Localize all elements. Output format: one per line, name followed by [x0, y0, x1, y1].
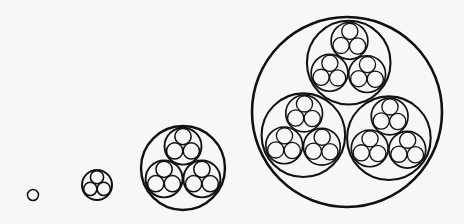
- circle-level-0: [288, 110, 304, 126]
- circle-level-1: [165, 128, 202, 165]
- circle-level-0: [148, 176, 164, 192]
- circle-level-2: [307, 21, 391, 105]
- stage-depth-0: [28, 190, 39, 201]
- circle-level-0: [342, 23, 358, 39]
- circle-level-1: [389, 131, 426, 168]
- stage-depth-1: [82, 170, 112, 200]
- circle-level-0: [305, 143, 321, 159]
- circle-level-0: [276, 128, 292, 144]
- circle-level-1: [331, 23, 368, 60]
- recursive-circles-diagram: [0, 0, 464, 224]
- circle-level-0: [314, 129, 330, 145]
- circle-level-0: [351, 71, 367, 87]
- circle-level-2: [141, 126, 225, 210]
- circle-level-0: [322, 144, 338, 160]
- circle-level-1: [183, 160, 220, 197]
- circle-level-2: [262, 93, 346, 177]
- circle-level-0: [359, 56, 375, 72]
- circle-level-0: [330, 70, 346, 86]
- circle-level-0: [156, 161, 172, 177]
- circle-level-0: [322, 55, 338, 71]
- circle-level-0: [268, 142, 284, 158]
- circle-level-3: [252, 17, 442, 207]
- circle-level-2: [347, 96, 431, 180]
- circle-level-0: [175, 128, 191, 144]
- circle-level-1: [303, 128, 340, 165]
- circle-level-0: [185, 176, 201, 192]
- circle-level-0: [382, 99, 398, 115]
- circle-level-0: [370, 145, 386, 161]
- circle-level-0: [28, 190, 39, 201]
- circle-level-0: [194, 161, 210, 177]
- circle-level-0: [407, 147, 423, 163]
- circle-level-0: [84, 182, 97, 195]
- stage-depth-2: [141, 126, 225, 210]
- circle-level-1: [311, 54, 348, 91]
- circle-level-0: [350, 38, 366, 54]
- circle-level-1: [82, 170, 112, 200]
- circle-level-0: [202, 176, 218, 192]
- circle-level-0: [390, 113, 406, 129]
- circle-level-1: [266, 127, 303, 164]
- circle-level-0: [400, 132, 416, 148]
- circle-level-0: [391, 146, 407, 162]
- circle-level-0: [183, 143, 199, 159]
- circle-level-0: [353, 145, 369, 161]
- circle-level-0: [296, 96, 312, 112]
- circle-level-0: [304, 110, 320, 126]
- circle-level-0: [164, 176, 180, 192]
- circle-level-0: [313, 69, 329, 85]
- circle-level-0: [167, 143, 183, 159]
- circle-level-0: [333, 37, 349, 53]
- circle-level-0: [373, 113, 389, 129]
- circle-level-0: [362, 131, 378, 147]
- circle-level-1: [371, 98, 408, 135]
- circle-level-1: [286, 95, 323, 132]
- stage-depth-3: [252, 17, 442, 207]
- circle-level-1: [351, 130, 388, 167]
- circle-level-0: [284, 142, 300, 158]
- circle-level-0: [367, 71, 383, 87]
- circle-level-0: [97, 182, 110, 195]
- circle-level-1: [146, 160, 183, 197]
- circle-level-1: [349, 56, 386, 93]
